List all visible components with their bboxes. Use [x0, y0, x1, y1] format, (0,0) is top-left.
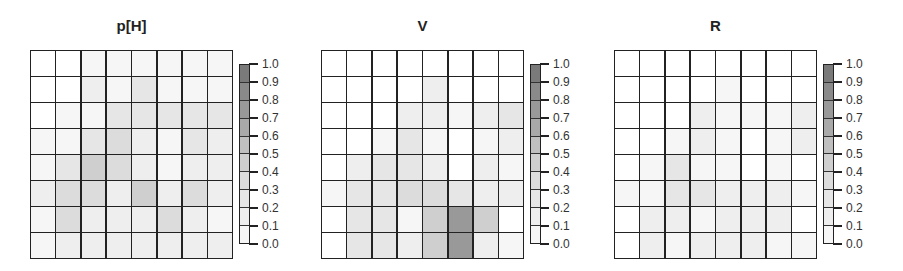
heatmap-cell — [767, 77, 791, 102]
heatmap-cell — [615, 233, 639, 258]
panel-title: V — [321, 17, 524, 34]
tick-mark — [540, 243, 549, 245]
heatmap-cell — [56, 233, 80, 258]
heatmap-cell — [767, 155, 791, 180]
heatmap-cell — [640, 181, 664, 206]
heatmap-cell — [499, 155, 523, 180]
heatmap-cell — [449, 103, 473, 128]
colorbar-segment — [824, 153, 833, 171]
heatmap-cell — [373, 77, 397, 102]
colorbar-segment — [531, 207, 540, 225]
tick-mark — [249, 171, 258, 173]
heatmap-cell — [322, 155, 346, 180]
heatmap-cell — [347, 77, 371, 102]
heatmap-cell — [208, 129, 232, 154]
heatmap-cell — [615, 129, 639, 154]
heatmap-cell — [615, 181, 639, 206]
tick-label: 0.8 — [553, 93, 570, 107]
heatmap-cell — [82, 51, 106, 76]
heatmap-cell — [474, 103, 498, 128]
heatmap-cell — [742, 233, 766, 258]
heatmap-cell — [31, 207, 55, 232]
tick-mark — [833, 243, 842, 245]
tick-label: 0.7 — [262, 111, 279, 125]
heatmap-cell — [666, 77, 690, 102]
heatmap-cell — [347, 181, 371, 206]
heatmap-cell — [742, 129, 766, 154]
heatmap-cell — [347, 233, 371, 258]
heatmap-cell — [767, 103, 791, 128]
heatmap-cell — [474, 181, 498, 206]
colorbar-segment — [240, 171, 249, 189]
heatmap-cell — [767, 129, 791, 154]
heatmap-cell — [183, 77, 207, 102]
heatmap-cell — [615, 51, 639, 76]
tick-mark — [833, 189, 842, 191]
heatmap-cell — [398, 155, 422, 180]
heatmap-cell — [716, 77, 740, 102]
colorbar-segment — [531, 100, 540, 118]
colorbar-segment — [531, 153, 540, 171]
heatmap-cell — [767, 207, 791, 232]
heatmap-cell — [691, 181, 715, 206]
heatmap-cell — [615, 103, 639, 128]
panel-title: R — [614, 17, 817, 34]
colorbar-segment — [240, 207, 249, 225]
tick-label: 0.8 — [262, 93, 279, 107]
heatmap-cell — [373, 103, 397, 128]
heatmap-cell — [423, 233, 447, 258]
heatmap-cell — [499, 181, 523, 206]
colorbar-segment — [824, 82, 833, 100]
heatmap-cell — [183, 233, 207, 258]
heatmap-cell — [742, 51, 766, 76]
tick-mark — [249, 81, 258, 83]
colorbar-segment — [531, 225, 540, 243]
heatmap-cell — [615, 155, 639, 180]
heatmap-cell — [158, 51, 182, 76]
heatmap-cell — [183, 51, 207, 76]
tick-label: 0.4 — [262, 165, 279, 179]
heatmap-cell — [691, 207, 715, 232]
heatmap-cell — [691, 155, 715, 180]
heatmap-cell — [742, 181, 766, 206]
heatmap-cell — [666, 129, 690, 154]
heatmap-cell — [373, 181, 397, 206]
heatmap-cell — [158, 207, 182, 232]
heatmap-cell — [322, 207, 346, 232]
heatmap-cell — [56, 51, 80, 76]
heatmap-cell — [107, 181, 131, 206]
heatmap-cell — [208, 51, 232, 76]
heatmap-cell — [423, 103, 447, 128]
tick-label: 0.3 — [846, 183, 863, 197]
tick-mark — [833, 81, 842, 83]
tick-label: 0.6 — [553, 129, 570, 143]
heatmap-cell — [322, 51, 346, 76]
heatmap-cell — [31, 233, 55, 258]
tick-mark — [833, 207, 842, 209]
heatmap-cell — [107, 155, 131, 180]
heatmap-cell — [373, 233, 397, 258]
heatmap-cell — [423, 207, 447, 232]
heatmap-cell — [373, 207, 397, 232]
heatmap-cell — [474, 233, 498, 258]
colorbar-segment — [824, 207, 833, 225]
tick-label: 0.1 — [262, 219, 279, 233]
colorbar-segment — [824, 118, 833, 136]
heatmap-cell — [183, 181, 207, 206]
heatmap-cell — [640, 129, 664, 154]
heatmap-cell — [322, 77, 346, 102]
heatmap-cell — [691, 233, 715, 258]
tick-mark — [249, 153, 258, 155]
heatmap-cell — [82, 207, 106, 232]
colorbar-segment — [531, 136, 540, 154]
heatmap-cell — [474, 77, 498, 102]
heatmap-cell — [183, 207, 207, 232]
heatmap-cell — [347, 129, 371, 154]
colorbar-segment — [824, 189, 833, 207]
heatmap-cell — [499, 129, 523, 154]
heatmap-cell — [742, 77, 766, 102]
colorbar-segment — [531, 189, 540, 207]
heatmap-cell — [208, 103, 232, 128]
tick-mark — [833, 63, 842, 65]
heatmap-cell — [615, 207, 639, 232]
